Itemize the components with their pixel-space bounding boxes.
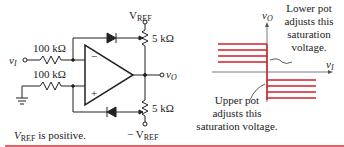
upper-pot-annotation: Upper pot adjusts this saturation voltag… [196,94,278,132]
vref-note: VREF is positive. [14,129,86,143]
svg-text:Lower pot: Lower pot [286,2,332,14]
upper-pot-label: 5 kΩ [152,32,174,44]
vref-top-label: VREF [129,9,152,23]
output-terminal [160,73,164,77]
opamp-plus-label: + [91,87,97,99]
svg-text:voltage.: voltage. [291,41,326,53]
lower-pot-annotation: Lower pot adjusts this saturation voltag… [284,2,333,53]
opamp-minus-label: − [91,50,97,62]
resistor-input-label: 100 kΩ [33,42,66,54]
output-label: vO [166,68,177,82]
comparator-circuit-diagram: VREF 5 kΩ 5 kΩ − VREF 100 kΩ 100 kΩ vI v… [0,0,344,147]
input-terminal [23,58,27,62]
upper-diode-icon [107,33,116,43]
lower-diode-icon [107,107,116,117]
lower-pot-label: 5 kΩ [152,102,174,114]
y-axis-label: vO [262,9,273,23]
input-label: vI [9,54,17,68]
svg-text:adjusts this: adjusts this [284,15,333,27]
upper-pot-icon [142,30,148,46]
resistor-ground-label: 100 kΩ [33,68,66,80]
resistor-ground-icon [40,82,61,90]
resistor-input-icon [40,56,61,64]
x-axis-label: vI [326,58,334,72]
lower-pot-icon [142,100,148,116]
svg-text:saturation: saturation [287,28,331,40]
vref-bottom-label: − VREF [127,128,159,142]
svg-text:Upper pot: Upper pot [215,94,259,106]
svg-text:adjusts this: adjusts this [212,107,261,119]
vref-bottom-terminal [143,122,147,126]
svg-text:saturation voltage.: saturation voltage. [196,120,278,132]
